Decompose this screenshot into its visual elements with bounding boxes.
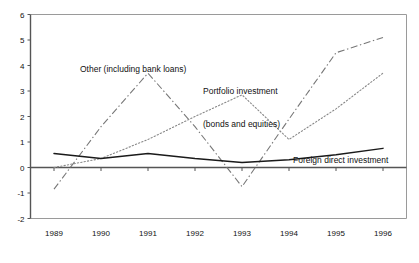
y-axis-tick-label: 5 [20, 36, 25, 45]
x-axis-tick-label: 1996 [374, 229, 392, 238]
y-axis-tick-label: 6 [20, 11, 25, 20]
annotation-portfolio-line1: Portfolio investment [203, 86, 280, 97]
y-axis-tick-label: 1 [20, 138, 25, 147]
x-axis-tick-label: 1995 [327, 229, 345, 238]
chart-container: -2-10123456 1989199019911992199319941995… [0, 0, 419, 263]
x-axis-tick-label: 1990 [92, 229, 110, 238]
y-axis-tick-label: -2 [17, 215, 25, 224]
y-axis-tick-label: -1 [17, 189, 25, 198]
annotation-fdi-label: Foreign direct investment [293, 155, 388, 166]
y-axis-tick-label: 3 [20, 87, 25, 96]
y-axis-tick-labels: -2-10123456 [17, 11, 25, 224]
annotation-portfolio-label: Portfolio investment (bonds and equities… [203, 64, 280, 152]
y-axis-tick-label: 0 [20, 164, 25, 173]
x-axis-tick-label: 1993 [233, 229, 251, 238]
y-axis-tick-label: 2 [20, 113, 25, 122]
x-axis-tick-label: 1989 [45, 229, 63, 238]
x-axis-tick-label: 1991 [139, 229, 157, 238]
y-axis-tick-label: 4 [20, 62, 25, 71]
x-axis-tick-labels: 19891990199119921993199419951996 [45, 229, 392, 238]
annotation-other-label: Other (including bank loans) [80, 64, 186, 75]
x-axis-tick-label: 1992 [186, 229, 204, 238]
x-axis-tick-label: 1994 [280, 229, 298, 238]
annotation-portfolio-line2: (bonds and equities) [203, 119, 280, 130]
